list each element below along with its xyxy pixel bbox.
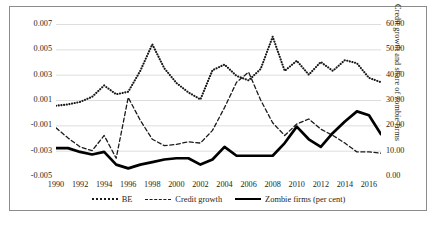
y-tick-label-right: 20.00 (386, 120, 432, 129)
chart-legend: BECredit growthZombie firms (per cent) (56, 192, 381, 206)
y-tick-label-left: 0.001 (6, 95, 52, 104)
legend-label: Credit growth (175, 195, 222, 204)
y-tick-label-left: 0.007 (6, 19, 52, 28)
y-tick-label-right: 10.00 (386, 146, 432, 155)
y-tick-label-right: 50.00 (386, 44, 432, 53)
chart-figure: Borrowing exuberance Credit growth and s… (0, 0, 438, 227)
legend-item[interactable]: Zombie firms (per cent) (235, 195, 345, 204)
y-tick-label-left: -0.001 (6, 120, 52, 129)
y-tick-label-right: 40.00 (386, 70, 432, 79)
legend-label: Zombie firms (per cent) (265, 195, 345, 204)
x-tick-label: 2016 (353, 180, 385, 189)
legend-label: BE (122, 195, 133, 204)
legend-swatch-solid-icon (235, 198, 261, 200)
legend-swatch-dotted-icon (92, 198, 118, 200)
y-tick-label-right: 30.00 (386, 95, 432, 104)
y-tick-label-left: -0.005 (6, 171, 52, 180)
series-line (56, 37, 381, 106)
legend-swatch-dashed-icon (145, 199, 171, 200)
legend-item[interactable]: BE (92, 195, 133, 204)
y-tick-label-left: 0.003 (6, 70, 52, 79)
y-tick-label-right: 60.00 (386, 19, 432, 28)
legend-item[interactable]: Credit growth (145, 195, 222, 204)
y-tick-label-left: -0.003 (6, 146, 52, 155)
chart-svg (56, 24, 381, 176)
series-lines (56, 37, 381, 169)
y-tick-label-left: 0.005 (6, 44, 52, 53)
y-tick-label-right: 0.00 (386, 171, 432, 180)
plot-area (56, 24, 381, 176)
